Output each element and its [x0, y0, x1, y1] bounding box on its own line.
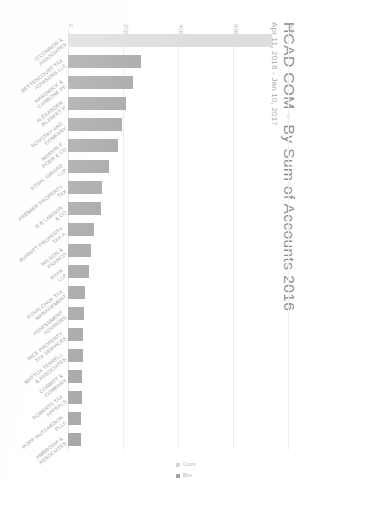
bar-row[interactable]: [68, 328, 83, 341]
bar-row[interactable]: [68, 370, 82, 383]
bar-row[interactable]: [68, 223, 94, 236]
bar[interactable]: [68, 328, 83, 341]
legend-item[interactable]: Blue: [176, 472, 195, 480]
gridline: [178, 30, 179, 450]
legend-label: Count: [183, 461, 195, 469]
legend-label: Blue: [183, 472, 192, 480]
axis-tick-label: 0: [68, 24, 74, 27]
bar-row[interactable]: [68, 412, 81, 425]
bar-row[interactable]: [68, 118, 122, 131]
bar[interactable]: [68, 265, 89, 278]
bar[interactable]: [68, 433, 81, 446]
bar[interactable]: [68, 391, 82, 404]
bar-row[interactable]: [68, 202, 101, 215]
bar[interactable]: [68, 244, 91, 257]
bar-row[interactable]: [68, 391, 82, 404]
bar[interactable]: [68, 55, 141, 68]
gridline: [123, 30, 124, 450]
bar[interactable]: [68, 223, 94, 236]
bar-row[interactable]: [68, 34, 272, 47]
bar-row[interactable]: [68, 433, 81, 446]
bar[interactable]: [68, 307, 84, 320]
bar-row[interactable]: [68, 265, 89, 278]
bar[interactable]: [68, 76, 133, 89]
plot-area: 020K40K60K80K: [68, 30, 288, 450]
bar[interactable]: [68, 370, 82, 383]
value-axis-line: [68, 30, 69, 450]
bar[interactable]: [68, 97, 126, 110]
bar-row[interactable]: [68, 181, 102, 194]
legend-swatch: [176, 474, 180, 478]
bar-row[interactable]: [68, 349, 83, 362]
bar[interactable]: [68, 118, 122, 131]
bar[interactable]: [68, 181, 102, 194]
bar[interactable]: [68, 160, 109, 173]
axis-tick-label: 80K: [288, 24, 294, 35]
bar[interactable]: [68, 286, 85, 299]
legend-swatch: [176, 463, 180, 467]
bar[interactable]: [68, 349, 83, 362]
bar-row[interactable]: [68, 307, 84, 320]
gridline: [288, 30, 289, 450]
bar-row[interactable]: [68, 97, 126, 110]
chart-canvas: HCAD COM - By Sum of Accounts 2016 Apr 1…: [0, 0, 368, 505]
bar-row[interactable]: [68, 286, 85, 299]
bar[interactable]: [68, 412, 81, 425]
chart-legend: CountBlue: [176, 461, 195, 483]
bar[interactable]: [68, 34, 272, 47]
bar[interactable]: [68, 202, 101, 215]
bar-row[interactable]: [68, 244, 91, 257]
bar-row[interactable]: [68, 139, 118, 152]
gridline: [233, 30, 234, 450]
bar[interactable]: [68, 139, 118, 152]
bar-row[interactable]: [68, 55, 141, 68]
bar-row[interactable]: [68, 160, 109, 173]
bar-row[interactable]: [68, 76, 133, 89]
legend-item[interactable]: Count: [176, 461, 195, 469]
